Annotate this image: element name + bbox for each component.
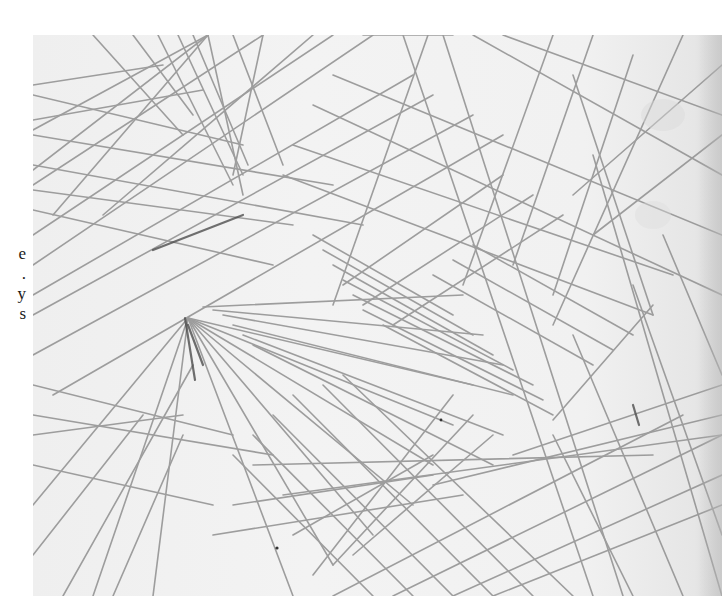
page-edge-shadow xyxy=(698,35,722,596)
margin-fragment: s xyxy=(0,304,26,324)
margin-fragment: y xyxy=(0,284,26,304)
margin-fragment: . xyxy=(0,264,26,284)
margin-text-fragments: e . y s xyxy=(0,244,26,324)
book-page: e . y s xyxy=(0,0,722,604)
margin-fragment: e xyxy=(0,244,26,264)
line-drawing-artwork xyxy=(33,35,722,596)
pencil-lines xyxy=(33,35,722,596)
